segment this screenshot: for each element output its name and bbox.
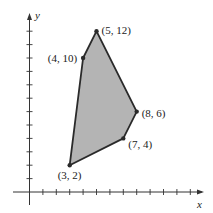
y-axis-label: y [34,9,40,21]
vertex-label: (4, 10) [48,52,78,65]
vertex-label: (5, 12) [102,24,132,37]
vertex-label: (8, 6) [142,107,166,120]
vertex-point [121,136,125,140]
x-axis-label: x [196,198,202,210]
y-axis-arrow-icon [27,13,32,20]
coordinate-plane: xy (3, 2)(4, 10)(5, 12)(8, 6)(7, 4) [0,0,213,213]
vertex-point [135,109,139,113]
vertex-label: (3, 2) [58,169,82,182]
vertex-point [81,56,85,60]
vertex-label: (7, 4) [128,138,152,151]
feasible-region [70,31,137,165]
vertex-point [94,29,98,33]
x-axis-arrow-icon [197,190,204,195]
vertex-point [68,163,72,167]
